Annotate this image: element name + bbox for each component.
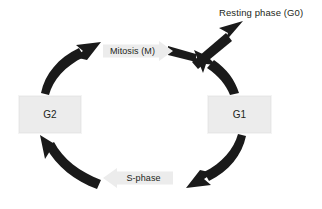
edge-mitosis-fork-stem — [168, 46, 196, 62]
node-sphase-label: S-phase — [126, 174, 160, 183]
node-g2[interactable]: G2 — [18, 95, 82, 134]
edge-g1-to-mitosis-arc — [207, 60, 239, 95]
cell-cycle-diagram: G2 G1 Mitosis (M) S-phase Resting phase … — [0, 0, 322, 209]
label-resting-phase: Resting phase (G0) — [219, 6, 319, 20]
label-resting-phase-text: Resting phase (G0) — [219, 8, 303, 18]
node-mitosis-label: Mitosis (M) — [110, 47, 155, 56]
node-g1-label: G1 — [233, 110, 247, 120]
node-g1[interactable]: G1 — [207, 95, 272, 134]
node-g2-label: G2 — [43, 110, 57, 120]
